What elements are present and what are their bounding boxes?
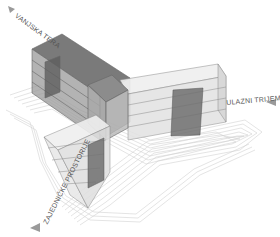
axonometric-diagram: VANJSKA TERA ULAZNI TRIJEM ZAJEDNIČKE PR… — [0, 0, 280, 237]
arrow-common-icon — [30, 223, 40, 232]
arrow-terrace-icon — [8, 6, 15, 13]
east-wing — [120, 64, 226, 140]
